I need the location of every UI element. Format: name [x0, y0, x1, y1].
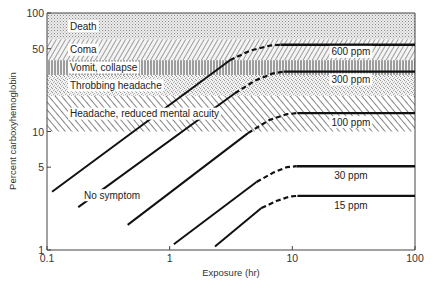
series-label-text: 100 ppm — [331, 117, 370, 128]
band-label-text: Vomit, collapse — [70, 62, 138, 73]
series-transition-dashed — [257, 166, 297, 182]
band-label-text: Death — [70, 21, 97, 32]
series-rise-line — [174, 182, 257, 244]
series-label-text: 30 ppm — [334, 170, 367, 181]
series-30-ppm — [174, 166, 415, 244]
band-label-text: Headache, reduced mental acuity — [70, 108, 219, 119]
series-label-300-ppm: 300 ppm — [329, 73, 372, 85]
series-label-text: 300 ppm — [331, 74, 370, 85]
band-label-text: Throbbing headache — [70, 80, 162, 91]
y-axis-title: Percent carboxyhemoglobin — [7, 72, 18, 190]
series-label-text: 15 ppm — [334, 200, 367, 211]
y-tick-label: 100 — [26, 7, 44, 19]
y-tick-label: 10 — [32, 126, 44, 138]
series-rise-line — [215, 208, 261, 247]
series-rise-line — [128, 133, 248, 225]
x-tick-label: 10 — [286, 252, 298, 264]
series-label-text: 600 ppm — [331, 46, 370, 57]
band-label-vomit-collapse: Vomit, collapse — [68, 62, 139, 74]
band-label-coma: Coma — [68, 44, 99, 56]
band-label-headache-reduced-mental-acuity: Headache, reduced mental acuity — [68, 108, 221, 120]
series-label-30-ppm: 30 ppm — [332, 170, 369, 182]
band-label-throbbing-headache: Throbbing headache — [68, 79, 164, 91]
y-tick-label: 50 — [32, 43, 44, 55]
annotation-text: No symptom — [84, 190, 140, 201]
band-label-text: Coma — [70, 44, 97, 55]
series-label-600-ppm: 600 ppm — [329, 46, 372, 58]
x-tick-label: 100 — [406, 252, 424, 264]
y-tick-label: 5 — [38, 161, 44, 173]
co-exposure-chart: 0.1110100151050100 DeathComaVomit, colla… — [0, 0, 433, 288]
series-transition-dashed — [261, 196, 297, 208]
series-15-ppm — [215, 196, 415, 247]
x-axis-title: Exposure (hr) — [202, 267, 260, 278]
band-death — [47, 13, 415, 39]
series-label-100-ppm: 100 ppm — [329, 116, 372, 128]
annotation-no-symptom: No symptom — [82, 189, 142, 201]
series-label-15-ppm: 15 ppm — [332, 199, 369, 211]
x-tick-label: 1 — [167, 252, 173, 264]
y-tick-label: 1 — [38, 244, 44, 256]
band-label-death: Death — [68, 20, 99, 32]
